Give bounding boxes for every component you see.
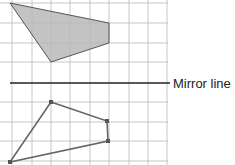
vertex-marker [106,139,110,143]
vertex-marker [8,160,12,164]
reflected-shape [10,102,108,162]
vertex-marker [49,100,53,104]
vertex-marker [105,119,109,123]
original-shape [10,3,109,62]
reflected-vertices [8,100,110,164]
mirror-line-label: Mirror line [173,76,231,91]
